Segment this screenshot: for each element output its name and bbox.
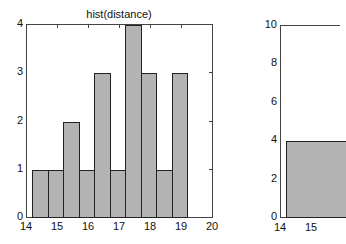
- histogram-bar: [172, 73, 189, 218]
- x-tick-label: 18: [140, 221, 160, 232]
- histogram-bar: [141, 73, 158, 218]
- plot-area-right: [280, 25, 340, 218]
- y-tick-mark: [209, 217, 212, 218]
- y-tick-label: 10: [263, 19, 277, 30]
- histogram-bar: [125, 25, 142, 218]
- y-tick-label: 3: [9, 66, 23, 77]
- x-tick-mark: [181, 25, 182, 28]
- histogram-bar: [48, 170, 65, 218]
- x-tick-mark: [150, 25, 151, 28]
- histogram-bar: [94, 73, 111, 218]
- y-tick-label: 6: [263, 96, 277, 107]
- x-tick-mark: [119, 25, 120, 28]
- histogram-bar: [79, 170, 96, 218]
- y-tick-label: 4: [9, 18, 23, 29]
- x-tick-label: 15: [47, 221, 67, 232]
- x-tick-label: 14: [270, 222, 290, 233]
- chart-title: hist(distance): [26, 8, 212, 20]
- x-tick-label: 17: [109, 221, 129, 232]
- x-tick-label: 20: [202, 221, 222, 232]
- histogram-bar: [110, 170, 127, 218]
- histogram-bar: [63, 122, 80, 219]
- y-tick-label: 2: [263, 173, 277, 184]
- y-tick-label: 4: [263, 134, 277, 145]
- y-tick-mark: [209, 121, 212, 122]
- x-tick-mark: [57, 25, 58, 28]
- x-tick-mark: [88, 25, 89, 28]
- x-tick-label: 15: [301, 222, 321, 233]
- histogram-bar: [286, 141, 346, 218]
- x-tick-label: 19: [171, 221, 191, 232]
- x-tick-label: 14: [16, 221, 36, 232]
- y-tick-label: 2: [9, 115, 23, 126]
- plot-area-left: [26, 24, 213, 218]
- x-tick-mark: [26, 25, 27, 28]
- y-tick-mark: [209, 169, 212, 170]
- histogram-bar: [32, 170, 49, 218]
- y-tick-mark: [209, 72, 212, 73]
- x-tick-mark: [212, 25, 213, 28]
- histogram-bar: [156, 170, 173, 218]
- x-tick-label: 16: [78, 221, 98, 232]
- y-tick-label: 8: [263, 57, 277, 68]
- y-tick-label: 1: [9, 163, 23, 174]
